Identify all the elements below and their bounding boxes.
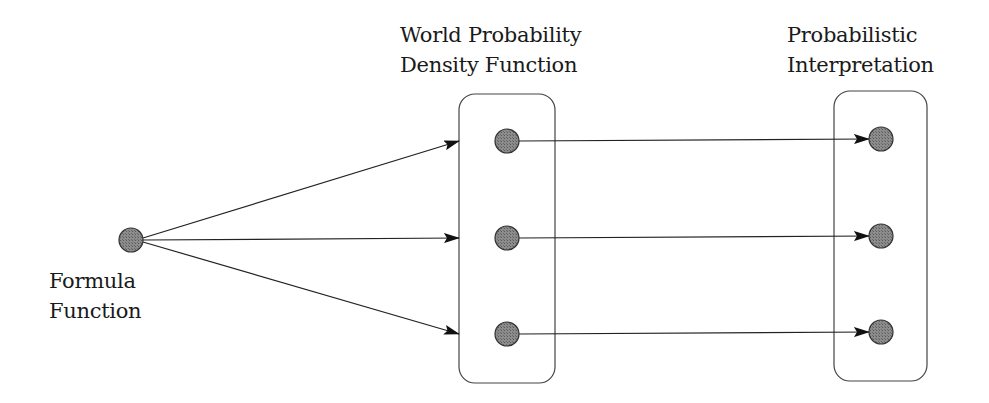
probabilistic-interpretation-label-line1: Probabilistic [787, 20, 934, 50]
world-pdf-label: World Probability Density Function [400, 20, 581, 80]
interpretation-node-1 [869, 127, 893, 151]
world-pdf-node-3 [495, 322, 519, 346]
formula-node [119, 228, 143, 252]
world-pdf-node-1 [495, 129, 519, 153]
edge-formula-to-wpdf-2 [143, 238, 459, 240]
interpretation-node-2 [869, 224, 893, 248]
world-pdf-label-line2: Density Function [400, 50, 581, 80]
world-pdf-label-line1: World Probability [400, 20, 581, 50]
edge-wpdf-to-interp-2 [519, 236, 869, 238]
probabilistic-interpretation-label: Probabilistic Interpretation [787, 20, 934, 80]
world-pdf-node-2 [495, 226, 519, 250]
formula-function-label: Formula Function [49, 266, 141, 326]
edge-wpdf-to-interp-3 [519, 332, 869, 334]
formula-function-label-line1: Formula [49, 266, 141, 296]
edge-wpdf-to-interp-1 [519, 139, 869, 141]
interpretation-node-3 [869, 320, 893, 344]
formula-function-label-line2: Function [49, 296, 141, 326]
edge-formula-to-wpdf-1 [143, 141, 459, 238]
probabilistic-interpretation-label-line2: Interpretation [787, 50, 934, 80]
edge-formula-to-wpdf-3 [143, 242, 459, 334]
